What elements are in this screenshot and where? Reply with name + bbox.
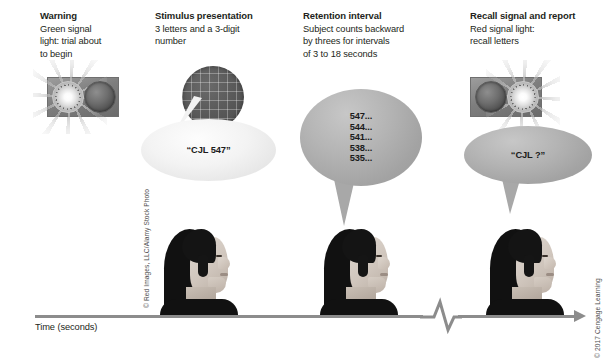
- signal-light-warning: [47, 77, 119, 117]
- signal-lamp-red-lit: [507, 81, 539, 113]
- signal-lamp-green-off: [475, 81, 507, 113]
- panel-recall-title: Recall signal and report: [470, 10, 575, 23]
- speech-bubble-stimulus-text: “CJL 547”: [187, 145, 231, 156]
- nose: [218, 257, 230, 269]
- panel-recall-header: Recall signal and report Red signal ligh…: [470, 10, 575, 48]
- panel-stimulus-description: 3 letters and a 3-digit number: [155, 23, 253, 48]
- sideburn: [524, 255, 534, 277]
- speech-bubble-retention-text: 547... 544... 541... 538... 535...: [350, 111, 373, 164]
- sideburn: [358, 255, 368, 277]
- lip: [546, 273, 554, 276]
- timeline-arrowhead-icon: [574, 310, 586, 322]
- sideburn: [198, 255, 208, 277]
- nose: [378, 257, 390, 269]
- timeline-axis-left: [35, 315, 423, 318]
- panel-stimulus-title: Stimulus presentation: [155, 10, 253, 23]
- signal-lamp-red-off: [84, 81, 116, 113]
- photo-credit: © Red Images, LLC/Alamy Stock Photo: [143, 189, 150, 308]
- timeline-axis-right: [458, 315, 576, 318]
- speech-bubble-stimulus: “CJL 547”: [141, 119, 276, 181]
- panel-stimulus-header: Stimulus presentation 3 letters and a 3-…: [155, 10, 253, 48]
- panel-recall-description: Red signal light: recall letters: [470, 23, 575, 48]
- signal-light-recall: [470, 77, 542, 117]
- subject-profile-photo-1: [160, 203, 238, 315]
- shoulders: [320, 299, 398, 315]
- nose: [544, 257, 556, 269]
- timeline-axis-label: Time (seconds): [35, 322, 97, 332]
- figure-canvas: Warning Green signal light: trial about …: [0, 0, 615, 364]
- subject-profile-photo-2: [320, 203, 398, 315]
- speech-bubble-recall-text: “CJL ?”: [511, 150, 545, 161]
- lip: [380, 273, 388, 276]
- panel-warning-description: Green signal light: trial about to begin: [40, 23, 101, 60]
- shoulders: [486, 299, 564, 315]
- panel-warning-header: Warning Green signal light: trial about …: [40, 10, 101, 60]
- speech-bubble-recall: “CJL ?”: [464, 126, 592, 184]
- panel-warning-title: Warning: [40, 10, 101, 23]
- panel-retention-header: Retention interval Subject counts backwa…: [303, 10, 404, 60]
- signal-lamp-green-lit: [52, 81, 84, 113]
- speech-bubble-retention: 547... 544... 541... 538... 535...: [300, 89, 422, 186]
- publisher-credit: © 2017 Cengage Learning: [594, 278, 601, 358]
- subject-profile-photo-3: [486, 203, 564, 315]
- shoulders: [160, 299, 238, 315]
- panel-retention-description: Subject counts backward by threes for in…: [303, 23, 404, 60]
- lip: [220, 273, 228, 276]
- panel-retention-title: Retention interval: [303, 10, 404, 23]
